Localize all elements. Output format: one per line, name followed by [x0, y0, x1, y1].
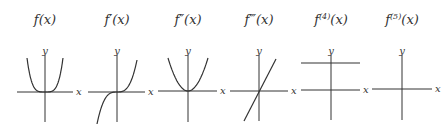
- y-axis-label: y: [184, 45, 191, 56]
- y-axis-label: y: [255, 45, 262, 56]
- panel-title: f″(x): [173, 12, 201, 27]
- x-axis-label: x: [291, 85, 297, 96]
- panel-derivative-3: f‴(x)xy: [230, 12, 297, 121]
- panel-derivative-1: f′(x)xy: [88, 12, 154, 124]
- x-axis-label: x: [220, 85, 226, 96]
- panel-derivative-2: f″(x)xy: [158, 12, 226, 122]
- panel-derivative-5: f(5)(x)xy: [372, 12, 441, 120]
- y-axis-label: y: [41, 45, 48, 56]
- x-axis-label: x: [148, 86, 154, 97]
- function-curve: [244, 59, 276, 121]
- panel-title: f′(x): [103, 12, 129, 27]
- x-axis-label: x: [435, 83, 441, 94]
- y-axis-label: y: [327, 45, 334, 56]
- derivatives-figure: f(x)xyf′(x)xyf″(x)xyf‴(x)xyf(4)(x)xyf(5)…: [0, 0, 444, 130]
- x-axis-label: x: [76, 86, 82, 97]
- panel-derivative-4: f(4)(x)xy: [301, 12, 369, 120]
- y-axis-label: y: [113, 45, 120, 56]
- panel-title: f(5)(x): [384, 12, 419, 27]
- panel-title: f(x): [33, 12, 56, 27]
- panel-title: f‴(x): [243, 12, 273, 27]
- y-axis-label: y: [398, 45, 405, 56]
- panel-f: f(x)xy: [17, 12, 82, 122]
- panel-title: f(4)(x): [313, 12, 348, 27]
- x-axis-label: x: [363, 84, 369, 95]
